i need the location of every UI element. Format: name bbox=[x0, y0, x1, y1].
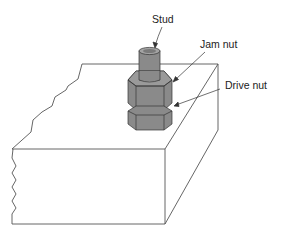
drive-nut-arrowhead bbox=[174, 102, 179, 107]
block-top-right-edge bbox=[165, 64, 218, 149]
diagram-canvas bbox=[0, 0, 290, 235]
drive-nut bbox=[128, 106, 172, 130]
block-right-bottom-edge bbox=[165, 130, 218, 224]
drive-nut-leader bbox=[176, 89, 220, 105]
drive-nut-label: Drive nut bbox=[225, 80, 267, 91]
jam-nut bbox=[128, 71, 172, 110]
block-broken-edge bbox=[12, 64, 82, 149]
fastener-assembly bbox=[128, 47, 172, 130]
block bbox=[12, 64, 218, 224]
stud-arrowhead bbox=[153, 42, 158, 48]
block-front-face bbox=[12, 149, 165, 224]
jam-nut-leader bbox=[175, 52, 205, 80]
stud-label: Stud bbox=[152, 14, 174, 25]
jam-nut-label: Jam nut bbox=[200, 39, 237, 50]
